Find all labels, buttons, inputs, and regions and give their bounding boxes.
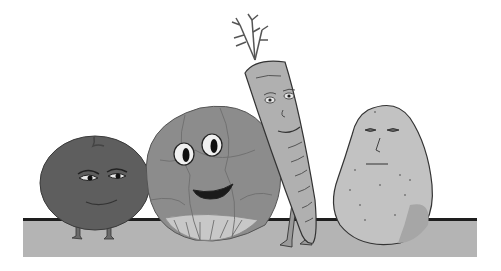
- vegetable-scene: [0, 0, 501, 271]
- cabbage: [146, 106, 280, 241]
